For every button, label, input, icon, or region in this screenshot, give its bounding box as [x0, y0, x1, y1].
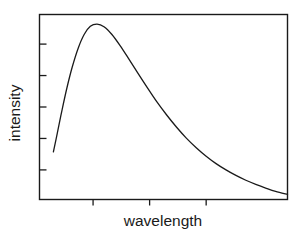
y-axis-label: intensity: [6, 84, 23, 141]
y-axis-ticks: [40, 44, 47, 170]
x-axis-label: wavelength: [123, 212, 202, 229]
plot-frame: [40, 15, 288, 200]
chart-figure: wavelength intensity: [0, 0, 302, 236]
spectrum-plot: wavelength intensity: [0, 0, 302, 236]
spectrum-curve: [53, 24, 287, 194]
x-axis-ticks: [93, 200, 206, 206]
